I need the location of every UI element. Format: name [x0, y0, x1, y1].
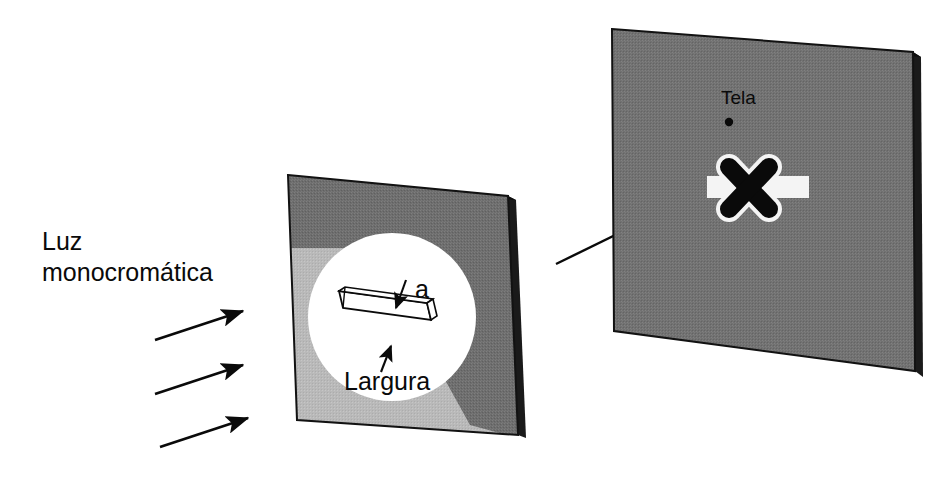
light-source-label-line1: Luz: [42, 227, 82, 255]
light-ray-arrow-2: [155, 365, 243, 394]
light-source-group: Luz monocromática: [42, 227, 248, 447]
screen-panel-group: Tela: [605, 22, 930, 382]
screen-name-label: Tela: [721, 87, 756, 108]
light-ray-arrow-1: [155, 311, 243, 340]
screen-center-dot: [725, 118, 733, 126]
optics-diagram-figure: Luz monocromática: [0, 0, 942, 480]
slit-width-symbol-label: a: [415, 275, 429, 303]
slit-panel-group: a Largura: [280, 165, 530, 450]
incoming-light-arrows: [155, 311, 248, 447]
diagram-canvas: Luz monocromática: [0, 0, 942, 480]
slit-width-word-label: Largura: [344, 367, 430, 395]
light-source-label-line2: monocromática: [42, 258, 213, 286]
light-ray-arrow-3: [160, 418, 248, 447]
